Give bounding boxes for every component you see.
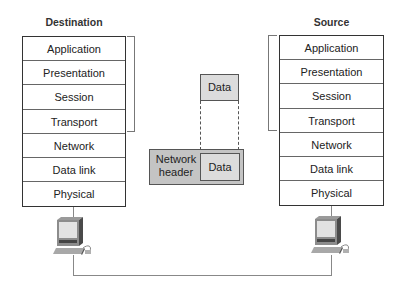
source-layer-data-link: Data link	[280, 157, 383, 181]
destination-layer-physical: Physical	[23, 182, 125, 206]
data-box: Data	[200, 74, 239, 101]
encapsulated-data-box: Data	[200, 153, 240, 181]
destination-layer-application: Application	[23, 37, 125, 61]
encapsulated-data-label: Data	[208, 161, 231, 173]
source-layer-session: Session	[280, 84, 383, 108]
source-stack: Application Presentation Session Transpo…	[279, 35, 384, 206]
destination-layer-session: Session	[23, 85, 125, 109]
network-header-label: Network header	[153, 153, 199, 179]
source-layer-physical: Physical	[280, 181, 383, 205]
network-packet-box: Network header Data	[149, 149, 244, 185]
source-title: Source	[279, 16, 384, 28]
source-layer-application: Application	[280, 36, 383, 60]
destination-computer-icon	[50, 216, 102, 258]
dashed-line-left	[200, 101, 201, 150]
network-link-wire	[73, 275, 332, 276]
destination-layer-transport: Transport	[23, 110, 125, 134]
source-pc-down-wire	[331, 255, 332, 276]
source-layer-transport: Transport	[280, 109, 383, 133]
data-label: Data	[208, 81, 231, 93]
destination-title: Destination	[22, 16, 126, 28]
source-layer-network: Network	[280, 133, 383, 157]
destination-upper-layers-bracket	[127, 36, 135, 132]
source-layer-presentation: Presentation	[280, 60, 383, 84]
destination-layer-data-link: Data link	[23, 158, 125, 182]
dashed-line-right	[238, 101, 239, 150]
destination-pc-down-wire	[73, 255, 74, 276]
destination-layer-network: Network	[23, 134, 125, 158]
source-upper-layers-bracket	[268, 35, 277, 131]
destination-layer-presentation: Presentation	[23, 61, 125, 85]
source-computer-icon	[308, 215, 360, 257]
destination-stack: Application Presentation Session Transpo…	[22, 36, 126, 207]
